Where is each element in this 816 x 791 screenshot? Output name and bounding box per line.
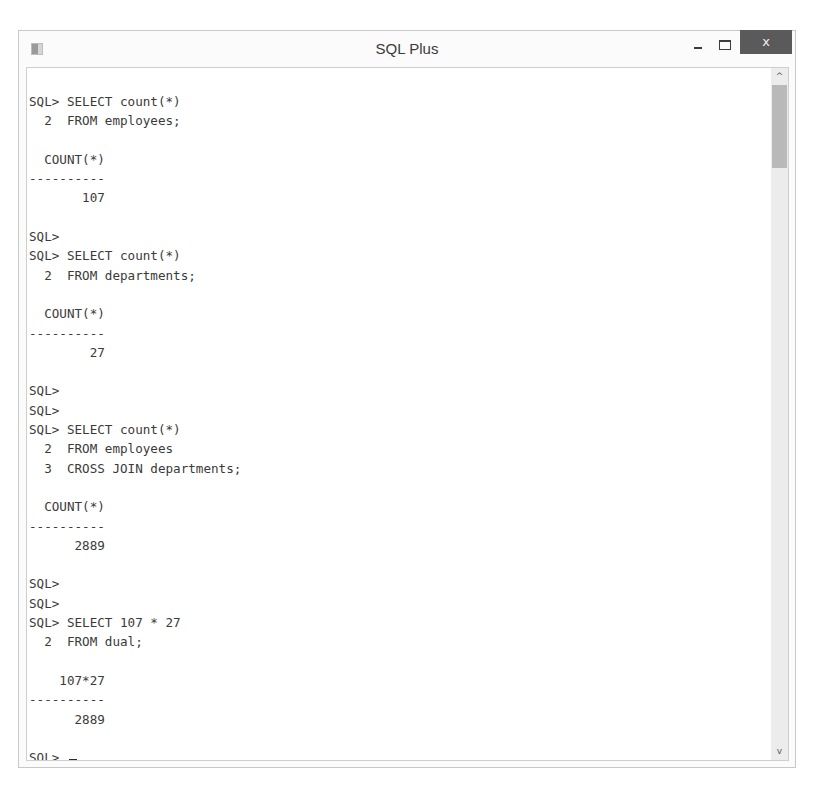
console-output[interactable]: SQL> SELECT count(*) 2 FROM employees; C… <box>29 92 769 761</box>
console-line-text: 2 FROM dual; <box>29 634 143 649</box>
console-line: 27 <box>29 343 769 362</box>
console-line: 107 <box>29 188 769 207</box>
console-line: SQL> <box>29 574 769 593</box>
sqlplus-window: SQL Plus x SQL> SELECT count(*) 2 FROM e… <box>18 30 796 768</box>
console-line-text: SQL> SELECT count(*) <box>29 248 181 263</box>
console-line: SQL> <box>29 748 769 761</box>
console-line-text: SQL> <box>29 383 59 398</box>
console-line: SQL> <box>29 381 769 400</box>
console-line: SQL> <box>29 227 769 246</box>
console-line <box>29 555 769 574</box>
console-line <box>29 729 769 748</box>
console-line-text: SQL> <box>29 229 59 244</box>
console-line: SQL> SELECT count(*) <box>29 420 769 439</box>
text-cursor <box>69 759 77 761</box>
console-line-text: ---------- <box>29 519 105 534</box>
console-line: COUNT(*) <box>29 304 769 323</box>
console-line: SQL> <box>29 594 769 613</box>
chevron-down-icon: v <box>777 746 782 756</box>
close-icon: x <box>762 34 770 49</box>
console-line-text: SQL> SELECT count(*) <box>29 422 181 437</box>
console-line-text: 107*27 <box>29 673 105 688</box>
title-bar[interactable]: SQL Plus x <box>19 31 795 67</box>
console-line-text: SQL> <box>29 576 59 591</box>
console-line: 2 FROM employees <box>29 439 769 458</box>
console-line-text: ---------- <box>29 171 105 186</box>
console-line: ---------- <box>29 690 769 709</box>
console-line <box>29 208 769 227</box>
scroll-down-button[interactable]: v <box>771 743 788 760</box>
console-line <box>29 285 769 304</box>
console-line: COUNT(*) <box>29 150 769 169</box>
console-line-text: SQL> <box>29 750 67 761</box>
console-line: ---------- <box>29 517 769 536</box>
console-line: 2 FROM dual; <box>29 632 769 651</box>
console-line <box>29 131 769 150</box>
console-line: SQL> SELECT count(*) <box>29 246 769 265</box>
window-title: SQL Plus <box>19 40 795 57</box>
console-line-text: 3 CROSS JOIN departments; <box>29 461 241 476</box>
scroll-thumb[interactable] <box>772 85 787 168</box>
console-line-text: 2889 <box>29 538 105 553</box>
console-line: ---------- <box>29 324 769 343</box>
console-line-text: COUNT(*) <box>29 152 105 167</box>
console-line-text: 2889 <box>29 712 105 727</box>
minimize-button[interactable] <box>687 35 713 57</box>
close-button[interactable]: x <box>740 30 792 54</box>
console-line-text: SQL> <box>29 596 59 611</box>
console-line-text: 27 <box>29 345 105 360</box>
console-line-text: SQL> <box>29 403 59 418</box>
console-line-text: 2 FROM employees <box>29 441 173 456</box>
console-line: 3 CROSS JOIN departments; <box>29 459 769 478</box>
vertical-scrollbar[interactable]: ^ v <box>771 68 788 760</box>
console-line <box>29 652 769 671</box>
console-line-text: ---------- <box>29 326 105 341</box>
console-line <box>29 362 769 381</box>
maximize-button[interactable] <box>713 35 739 57</box>
console-area[interactable]: SQL> SELECT count(*) 2 FROM employees; C… <box>26 67 789 761</box>
console-line <box>29 478 769 497</box>
console-line: SQL> SELECT count(*) <box>29 92 769 111</box>
console-line-text: SQL> SELECT 107 * 27 <box>29 615 181 630</box>
console-line: SQL> <box>29 401 769 420</box>
console-line: 2889 <box>29 710 769 729</box>
console-line: ---------- <box>29 169 769 188</box>
console-line-text: 2 FROM employees; <box>29 113 181 128</box>
console-line: 2889 <box>29 536 769 555</box>
console-line-text: ---------- <box>29 692 105 707</box>
console-line-text: 2 FROM departments; <box>29 268 196 283</box>
console-line: 2 FROM employees; <box>29 111 769 130</box>
console-line-text: 107 <box>29 190 105 205</box>
console-line: 107*27 <box>29 671 769 690</box>
scroll-up-button[interactable]: ^ <box>771 68 788 85</box>
console-line: 2 FROM departments; <box>29 266 769 285</box>
console-line-text: SQL> SELECT count(*) <box>29 94 181 109</box>
console-line-text: COUNT(*) <box>29 306 105 321</box>
console-line: COUNT(*) <box>29 497 769 516</box>
console-line: SQL> SELECT 107 * 27 <box>29 613 769 632</box>
chevron-up-icon: ^ <box>776 71 784 81</box>
console-line-text: COUNT(*) <box>29 499 105 514</box>
